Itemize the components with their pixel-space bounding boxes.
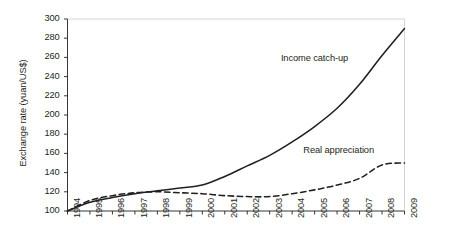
chart-figure: Exchange rate (yuan/US$) 100120140160180… [0,0,449,250]
x-tick-label: 2006 [341,198,351,218]
x-tick-label: 2005 [319,198,329,218]
plot-frame [68,19,405,211]
data-series-group [68,29,405,211]
y-tick-label: 280 [32,32,60,42]
y-tick-label: 100 [32,205,60,215]
y-tick-label: 300 [32,13,60,23]
series-annotation-label: Income catch-up [281,53,348,63]
y-tick-label: 220 [32,90,60,100]
x-tick-label: 2001 [229,198,239,218]
x-tick-label: 2004 [296,198,306,218]
x-tick-label: 1999 [184,198,194,218]
x-tick-label: 2007 [364,198,374,218]
y-tick-label: 140 [32,167,60,177]
y-tick-label: 240 [32,71,60,81]
y-tick-label: 260 [32,51,60,61]
x-tick-label: 2009 [409,198,419,218]
x-tick-label: 1998 [161,198,171,218]
x-tick-label: 2008 [386,198,396,218]
x-tick-label: 2002 [251,198,261,218]
x-tick-label: 1995 [94,198,104,218]
chart-plot-area [0,0,449,250]
y-tick-label: 180 [32,128,60,138]
y-tick-label: 160 [32,147,60,157]
series-line-1 [68,29,405,211]
x-tick-label: 1996 [116,198,126,218]
y-axis-ticks [64,19,68,211]
y-tick-label: 120 [32,186,60,196]
x-tick-label: 1994 [72,198,82,218]
x-tick-label: 2003 [274,198,284,218]
x-tick-label: 1997 [139,198,149,218]
x-tick-label: 2000 [206,198,216,218]
y-tick-label: 200 [32,109,60,119]
series-annotation-label: Real appreciation [303,145,374,155]
